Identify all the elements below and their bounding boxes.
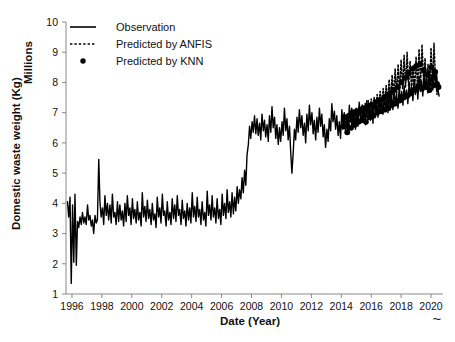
knn-data-point — [344, 129, 350, 135]
x-axis-tick-label: 2014 — [330, 300, 354, 312]
y-axis-tick-label: 9 — [52, 46, 58, 58]
legend-label-observation: Observation — [116, 21, 175, 33]
x-axis-tick-label: 2010 — [270, 300, 294, 312]
corner-tilde-mark: ~ — [433, 310, 442, 327]
x-axis-tick-label: 2000 — [120, 300, 144, 312]
y-axis-tick-label: 4 — [52, 197, 58, 209]
y-axis-tick-label: 6 — [52, 137, 58, 149]
legend-dot-swatch — [80, 58, 85, 63]
y-axis-unit-label: Millions — [22, 41, 34, 84]
x-axis-tick-label: 2016 — [360, 300, 384, 312]
y-axis-title: Domestic waste weight (Kg) — [10, 77, 22, 230]
x-axis-tick-label: 2002 — [150, 300, 174, 312]
knn-data-point — [417, 61, 423, 67]
x-axis-tick-label: 2012 — [300, 300, 324, 312]
knn-data-point — [402, 75, 408, 81]
legend-label-anfis: Predicted by ANFIS — [116, 38, 212, 50]
x-axis-title: Date (Year) — [220, 315, 280, 327]
knn-data-point — [341, 123, 347, 129]
legend-label-knn: Predicted by KNN — [116, 55, 203, 67]
waste-weight-timeseries-chart: 1234567891019961998200020022004200620082… — [0, 0, 455, 342]
y-axis-tick-label: 1 — [52, 288, 58, 300]
knn-data-point — [428, 64, 434, 70]
knn-data-point — [436, 84, 442, 90]
knn-data-point — [425, 72, 431, 78]
knn-data-point — [432, 69, 438, 75]
y-axis-tick-label: 8 — [52, 76, 58, 88]
y-axis-tick-label: 2 — [52, 258, 58, 270]
knn-data-point — [406, 70, 412, 76]
y-axis-tick-label: 5 — [52, 167, 58, 179]
y-axis-tick-label: 10 — [46, 16, 58, 28]
x-axis-tick-label: 1998 — [90, 300, 114, 312]
x-axis-tick-label: 1996 — [60, 300, 84, 312]
knn-data-point — [427, 87, 433, 93]
x-axis-tick-label: 2008 — [240, 300, 264, 312]
knn-data-point — [421, 67, 427, 73]
knn-data-point — [363, 119, 369, 125]
x-axis-tick-label: 2004 — [180, 300, 204, 312]
y-axis-tick-label: 7 — [52, 106, 58, 118]
knn-data-point — [395, 84, 401, 90]
y-axis-tick-label: 3 — [52, 227, 58, 239]
x-axis-tick-label: 2006 — [210, 300, 234, 312]
chart-figure: 1234567891019961998200020022004200620082… — [0, 0, 455, 342]
chart-background — [0, 0, 455, 342]
x-axis-tick-label: 2018 — [389, 300, 413, 312]
knn-data-point — [399, 80, 405, 86]
